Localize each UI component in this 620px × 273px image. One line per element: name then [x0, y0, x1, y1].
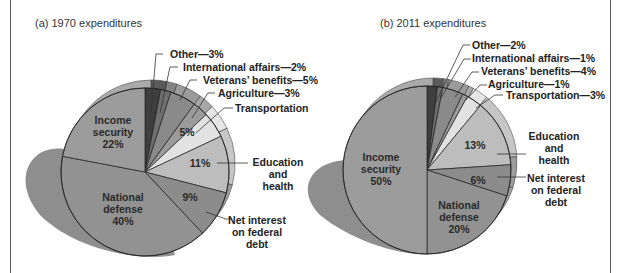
pct-inc-1970: 22% — [102, 138, 124, 150]
label-trans-1970: Transportation — [235, 102, 309, 114]
pct-int-1970: 9% — [182, 191, 198, 203]
label-edu-1970-l3: health — [263, 180, 294, 192]
label-int-1970-l3: debt — [246, 238, 269, 250]
pct-edu-1970: 11% — [190, 157, 211, 169]
label-ag-1970: Agriculture—3% — [218, 87, 300, 99]
label-inc-2011-l2: security — [361, 163, 401, 175]
pie-2011 — [308, 78, 517, 254]
pct-def-2011: 20% — [448, 223, 470, 235]
label-def-2011-l1: National — [438, 199, 480, 211]
pct-trans-1970: 5% — [179, 126, 195, 138]
label-int-1970-l2: on federal — [232, 226, 282, 238]
label-edu-2011-l3: health — [539, 154, 570, 166]
label-int-2011-l2: on federal — [531, 184, 581, 196]
label-vets-2011: Veterans’ benefits—4% — [481, 65, 597, 77]
label-vets-1970: Veterans’ benefits—5% — [203, 74, 319, 86]
label-intl-1970: International affairs—2% — [183, 61, 307, 73]
label-other-1970: Other—3% — [170, 48, 224, 60]
pct-def-1970: 40% — [112, 215, 134, 227]
label-def-2011-l2: defense — [439, 211, 479, 223]
label-edu-2011-l1: Education — [529, 130, 580, 142]
label-inc-1970-l2: security — [93, 126, 133, 138]
label-def-1970-l2: defense — [103, 203, 143, 215]
label-other-2011: Other—2% — [472, 39, 526, 51]
label-edu-1970-l1: Education — [253, 156, 304, 168]
label-int-2011-l3: debt — [545, 196, 568, 208]
label-int-2011-l1: Net interest — [527, 172, 585, 184]
label-edu-2011-l2: and — [545, 142, 564, 154]
label-inc-2011-l1: Income — [363, 151, 400, 163]
pct-inc-2011: 50% — [370, 175, 392, 187]
pct-edu-2011: 13% — [464, 139, 486, 151]
label-def-1970-l1: National — [102, 191, 144, 203]
label-inc-1970-l1: Income — [95, 114, 132, 126]
label-intl-2011: International affairs—1% — [472, 52, 596, 64]
label-int-1970-l1: Net interest — [228, 214, 286, 226]
label-trans-2011: Transportation—3% — [506, 89, 606, 101]
label-edu-1970-l2: and — [269, 168, 288, 180]
pct-int-2011: 6% — [470, 174, 486, 186]
